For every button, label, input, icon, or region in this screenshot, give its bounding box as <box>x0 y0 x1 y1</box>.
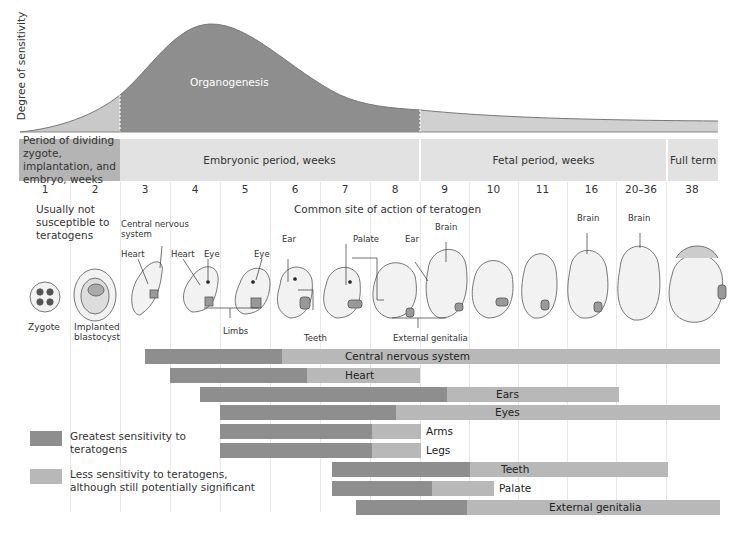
week-label: 38 <box>666 183 718 199</box>
bar-heart <box>170 368 420 383</box>
week-label: 9 <box>420 183 469 199</box>
organogenesis-label: Organogenesis <box>190 76 269 88</box>
week-label: 3 <box>120 183 170 199</box>
label-implanted-blastocyst: Implanted blastocyst <box>74 322 120 342</box>
bar-label-eyes: Eyes <box>495 405 520 420</box>
bar-ears <box>200 387 619 402</box>
week-label: 7 <box>320 183 370 199</box>
label-ear-week9: Ear <box>405 234 419 244</box>
period-header-full-term: Full term <box>668 139 718 181</box>
period-header-zygote: Period of dividing zygote, implantation,… <box>19 139 120 181</box>
label-palate: Palate <box>353 234 379 244</box>
label-external-genitalia: External genitalia <box>393 333 468 343</box>
legend-swatch-less <box>30 469 62 484</box>
bar-label-arms: Arms <box>426 424 453 439</box>
legend-label-greatest: Greatest sensitivity to teratogens <box>70 430 190 456</box>
period-header-embryonic: Embryonic period, weeks <box>120 139 419 181</box>
week-label: 8 <box>370 183 420 199</box>
week-label: 16 <box>567 183 616 199</box>
period-header-fetal: Fetal period, weeks <box>421 139 666 181</box>
label-teeth: Teeth <box>304 333 327 343</box>
bar-label-legs: Legs <box>426 443 450 458</box>
bar-label-teeth: Teeth <box>501 462 529 477</box>
legend-label-less: Less sensitivity to teratogens, although… <box>70 468 260 494</box>
label-heart-week3: Heart <box>121 249 145 259</box>
week-label: 11 <box>518 183 567 199</box>
bar-teeth <box>332 462 668 477</box>
label-ear-week6: Ear <box>282 234 296 244</box>
label-limbs: Limbs <box>223 326 248 336</box>
week-label: 5 <box>220 183 270 199</box>
week-label: 6 <box>270 183 320 199</box>
week-label: 2 <box>70 183 120 199</box>
common-site-note: Common site of action of teratogen <box>294 203 481 215</box>
bar-external-genitalia <box>356 500 720 515</box>
label-central-nervous-system: Central nervous system <box>121 219 191 239</box>
label-eye-week5: Eye <box>254 249 270 259</box>
y-axis-label: Degree of sensitivity <box>15 11 27 121</box>
week-label: 10 <box>469 183 518 199</box>
week-label: 4 <box>170 183 220 199</box>
label-brain-week9: Brain <box>435 222 457 232</box>
bar-label-ears: Ears <box>496 387 519 402</box>
label-brain-week16: Brain <box>577 213 599 223</box>
label-brain-week20: Brain <box>628 213 650 223</box>
label-heart-week4: Heart <box>171 249 195 259</box>
bar-arms <box>220 424 421 439</box>
bar-palate <box>332 481 494 496</box>
bar-label-heart: Heart <box>345 368 374 383</box>
week-label: 1 <box>20 183 70 199</box>
week-label: 20–36 <box>616 183 666 199</box>
label-zygote: Zygote <box>28 322 60 332</box>
bar-label-central-nervous-system: Central nervous system <box>345 349 470 364</box>
bar-label-palate: Palate <box>499 481 531 496</box>
legend-swatch-greatest <box>30 431 62 446</box>
sensitivity-curve <box>0 0 750 140</box>
label-eye-week4: Eye <box>204 249 220 259</box>
bar-eyes <box>220 405 720 420</box>
bar-legs <box>220 443 421 458</box>
bar-label-external-genitalia: External genitalia <box>549 500 641 515</box>
